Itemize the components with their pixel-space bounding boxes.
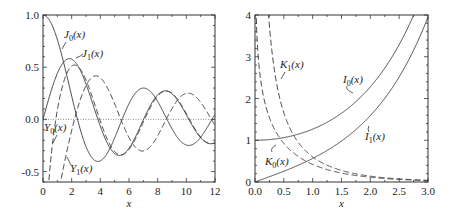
x-tick-label: 1.0 bbox=[306, 185, 320, 197]
x-axis-title: x bbox=[126, 197, 132, 209]
x-tick-label: 4 bbox=[98, 185, 104, 197]
x-tick-label: 3.0 bbox=[421, 185, 435, 197]
x-tick-label: 10 bbox=[181, 185, 193, 197]
label-leader-arrow bbox=[272, 145, 277, 152]
y-tick-label: 0.5 bbox=[25, 61, 39, 73]
label-leader-arrow bbox=[67, 157, 71, 165]
curve-label: J0(x) bbox=[64, 28, 85, 43]
curve-k0x bbox=[255, 0, 428, 181]
x-tick-label: 1.5 bbox=[335, 185, 349, 197]
curve-label: J1(x) bbox=[82, 47, 103, 62]
x-tick-label: 8 bbox=[155, 185, 161, 197]
x-tick-label: 12 bbox=[210, 185, 221, 197]
label-leader-arrow bbox=[281, 72, 285, 79]
x-tick-label: 0 bbox=[40, 185, 46, 197]
x-axis-title: x bbox=[338, 197, 344, 209]
y-tick-label: 1.0 bbox=[25, 9, 39, 21]
bessel-functions-figure: 024681012-0.50.00.51.0xJ0(x)J1(x)Y0(x)Y1… bbox=[0, 0, 450, 214]
curve-label: Y0(x) bbox=[44, 121, 67, 136]
bessel-jy-plot: 024681012-0.50.00.51.0xJ0(x)J1(x)Y0(x)Y1… bbox=[22, 9, 221, 214]
y-tick-label: 2 bbox=[246, 93, 252, 105]
x-tick-label: 2.5 bbox=[392, 185, 406, 197]
x-tick-label: 2 bbox=[69, 185, 75, 197]
curve-label: K1(x) bbox=[279, 58, 304, 73]
x-tick-label: 2.0 bbox=[363, 185, 377, 197]
curve-label: I1(x) bbox=[364, 130, 385, 145]
y-tick-label: 0.0 bbox=[25, 113, 39, 125]
label-leader-arrow bbox=[368, 126, 369, 132]
curve-k1x bbox=[255, 0, 428, 180]
label-leader-arrow bbox=[62, 42, 66, 49]
y-tick-label: 3 bbox=[246, 51, 252, 63]
curve-label: I0(x) bbox=[342, 73, 363, 88]
y-tick-label: 4 bbox=[246, 9, 252, 21]
y-tick-label: -0.5 bbox=[22, 166, 40, 178]
y-tick-label: 1 bbox=[246, 134, 252, 146]
label-leader-arrow bbox=[53, 135, 57, 143]
curve-label: K0(x) bbox=[264, 155, 289, 170]
curve-i0x bbox=[255, 0, 428, 140]
modified-bessel-ik-plot: 0.00.51.01.52.02.53.001234xK1(x)I0(x)I1(… bbox=[246, 0, 436, 209]
y-tick-label: 0 bbox=[246, 176, 252, 188]
curve-label: Y1(x) bbox=[70, 162, 93, 177]
x-tick-label: 0.5 bbox=[277, 185, 291, 197]
x-tick-label: 6 bbox=[126, 185, 132, 197]
